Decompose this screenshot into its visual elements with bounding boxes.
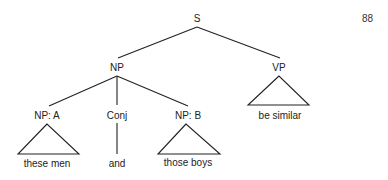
node-vp: VP (272, 62, 285, 74)
node-np-b: NP: B (175, 110, 201, 122)
edge-s-np (118, 27, 197, 58)
node-s: S (194, 13, 201, 25)
leaf-and: and (109, 158, 126, 170)
leaf-these-men: these men (24, 158, 71, 170)
edge-np-npa (49, 76, 117, 106)
page-number: 88 (362, 13, 373, 25)
tree-edges (0, 0, 388, 180)
node-conj: Conj (107, 110, 128, 122)
triangle-np-a (18, 124, 79, 154)
edge-np-npb (117, 76, 188, 106)
triangle-vp (248, 76, 309, 105)
leaf-those-boys: those boys (164, 157, 212, 169)
edge-s-vp (197, 27, 280, 58)
leaf-be-similar: be similar (259, 110, 302, 122)
node-np-a: NP: A (34, 110, 60, 122)
triangle-np-b (158, 124, 220, 154)
node-np: NP (110, 62, 124, 74)
